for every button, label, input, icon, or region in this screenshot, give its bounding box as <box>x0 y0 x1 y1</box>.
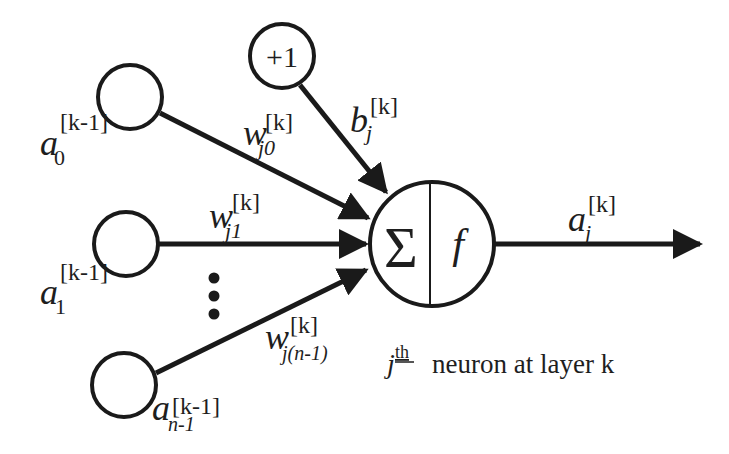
svg-text:[k-1]: [k-1] <box>60 109 108 135</box>
output-label: a [k] j <box>568 191 616 245</box>
bias-label: b [k] j <box>350 93 398 145</box>
neuron-diagram: +1 Σ f a [k-1] 0 a [k-1] 1 a [k-1] n-1 w… <box>0 0 729 454</box>
svg-text:[k-1]: [k-1] <box>60 259 108 285</box>
arrow-input-n-1 <box>156 270 366 373</box>
svg-text:n-1: n-1 <box>168 413 195 435</box>
svg-text:[k]: [k] <box>370 93 398 119</box>
activation-symbol: f <box>452 221 469 267</box>
neuron-caption: j th neuron at layer k <box>384 342 615 379</box>
weight-label-j0: w [k] j0 <box>243 109 293 160</box>
weight-label-j-n-1: w [k] j(n-1) <box>265 312 328 365</box>
input-label-n-1: a [k-1] n-1 <box>152 388 220 435</box>
input-node-n-1 <box>92 353 156 417</box>
svg-text:[k]: [k] <box>290 312 318 338</box>
svg-text:[k]: [k] <box>588 191 616 217</box>
svg-text:th: th <box>395 342 409 362</box>
input-label-0: a [k-1] 0 <box>40 109 108 170</box>
svg-text:j(n-1): j(n-1) <box>279 342 328 365</box>
input-label-1: a [k-1] 1 <box>40 259 108 319</box>
neuron-body: Σ f <box>370 182 494 306</box>
svg-text:[k]: [k] <box>265 109 293 135</box>
svg-text:0: 0 <box>54 145 65 170</box>
svg-text:a: a <box>568 199 586 239</box>
weight-label-j1: w [k] j1 <box>209 189 260 243</box>
bias-node-label: +1 <box>266 40 298 73</box>
svg-text:j1: j1 <box>222 218 242 243</box>
svg-text:j0: j0 <box>255 135 275 160</box>
svg-text:j: j <box>384 348 395 379</box>
svg-text:[k]: [k] <box>232 189 260 215</box>
svg-text:1: 1 <box>55 294 66 319</box>
ellipsis-dots <box>209 273 220 320</box>
sum-symbol: Σ <box>384 215 418 280</box>
svg-text:neuron at layer k: neuron at layer k <box>432 349 615 379</box>
